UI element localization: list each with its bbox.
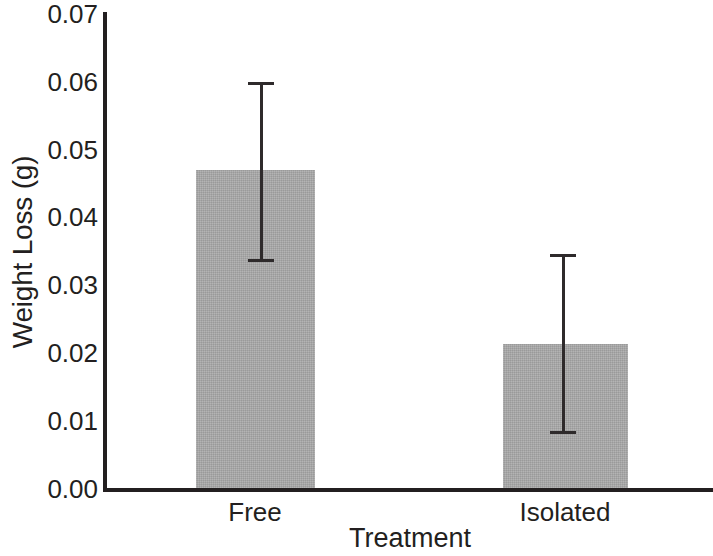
y-tick-label: 0.01 (6, 408, 98, 434)
y-tick-0.07: 0.07 (0, 14, 98, 15)
bar-isolated (503, 344, 628, 488)
y-tick-0.02: 0.02 (0, 353, 98, 354)
y-tick-label: 0.03 (6, 272, 98, 298)
y-axis-title: Weight Loss (g) (6, 132, 40, 372)
error-bar-cap-lower-free (248, 259, 274, 262)
y-tick-label: 0.00 (6, 476, 98, 502)
y-tick-0.00: 0.00 (0, 489, 98, 490)
x-axis-line (103, 488, 713, 492)
error-bar-cap-lower-isolated (550, 431, 576, 434)
y-tick-label: 0.06 (6, 69, 98, 95)
bar-chart: Weight Loss (g) 0.07 0.06 0.05 0.04 0.03… (0, 0, 713, 556)
x-axis-title: Treatment (310, 522, 510, 554)
y-tick-0.05: 0.05 (0, 150, 98, 151)
error-bar-cap-upper-isolated (550, 254, 576, 257)
y-tick-0.06: 0.06 (0, 82, 98, 83)
y-axis-line (103, 12, 107, 492)
y-tick-label: 0.02 (6, 340, 98, 366)
error-bar-stem-isolated (562, 255, 565, 433)
y-tick-label: 0.05 (6, 137, 98, 163)
y-tick-0.04: 0.04 (0, 217, 98, 218)
y-tick-label: 0.07 (6, 1, 98, 27)
y-tick-label: 0.04 (6, 204, 98, 230)
bar-free (196, 170, 315, 488)
y-tick-0.03: 0.03 (0, 285, 98, 286)
error-bar-stem-free (260, 83, 263, 261)
y-tick-0.01: 0.01 (0, 421, 98, 422)
error-bar-cap-upper-free (248, 82, 274, 85)
